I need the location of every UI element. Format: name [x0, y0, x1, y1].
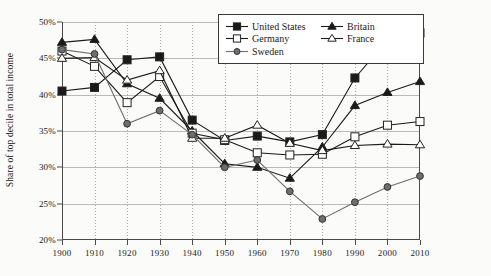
legend-label: Germany [252, 33, 289, 44]
legend-item-france: France [321, 33, 416, 44]
filled-square-marker [188, 116, 196, 124]
x-tick-label: 2000 [378, 248, 397, 258]
filled-circle-marker [124, 120, 131, 127]
x-tick-label: 1990 [345, 248, 364, 258]
open-square-icon [226, 33, 248, 44]
filled-triangle-marker [90, 35, 99, 43]
filled-circle-marker [417, 173, 424, 180]
open-square-marker [416, 118, 424, 126]
x-tick-mark [257, 240, 258, 245]
x-tick-mark [322, 240, 323, 245]
filled-circle-icon [226, 46, 248, 57]
y-tick-label: 30% [39, 162, 56, 172]
open-square-marker [286, 151, 294, 159]
y-tick-label: 50% [39, 17, 56, 27]
open-triangle-marker [350, 141, 359, 149]
series-line [62, 50, 420, 219]
series-line [62, 51, 420, 155]
x-tick-mark [225, 240, 226, 245]
legend-label: Britain [347, 21, 375, 32]
filled-square-marker [318, 131, 326, 139]
filled-circle-marker [234, 48, 240, 54]
x-tick-label: 1970 [280, 248, 299, 258]
legend-row: United States Britain [226, 21, 416, 32]
x-tick-label: 1920 [117, 248, 136, 258]
open-square-marker [233, 35, 240, 42]
x-tick-label: 2010 [410, 248, 429, 258]
filled-triangle-marker [415, 77, 424, 85]
filled-square-marker [253, 132, 261, 140]
open-triangle-marker [415, 140, 424, 148]
open-square-marker [351, 133, 359, 141]
y-axis-label: Share of top decile in total income [2, 0, 18, 240]
filled-circle-marker [286, 188, 293, 195]
filled-square-marker [123, 56, 131, 64]
filled-circle-marker [156, 107, 163, 114]
legend-label: United States [252, 21, 306, 32]
y-tick-label: 40% [39, 90, 56, 100]
filled-square-marker [233, 22, 240, 29]
legend-label: France [347, 33, 374, 44]
filled-circle-marker [189, 131, 196, 138]
x-tick-label: 1900 [52, 248, 71, 258]
open-square-marker [91, 62, 99, 70]
open-triangle-marker [253, 121, 262, 129]
legend-item-united-states: United States [226, 21, 321, 32]
x-tick-label: 1960 [248, 248, 267, 258]
filled-circle-marker [352, 199, 359, 206]
filled-circle-marker [221, 164, 228, 171]
filled-square-marker [351, 74, 359, 82]
open-triangle-marker [155, 66, 164, 74]
y-tick-label: 25% [39, 199, 56, 209]
legend-row: Germany France [226, 33, 416, 44]
filled-circle-marker [91, 51, 98, 58]
chart-figure: Share of top decile in total income 20%2… [0, 0, 491, 276]
filled-square-icon [226, 21, 248, 32]
open-triangle-marker [328, 34, 336, 41]
open-triangle-marker [383, 139, 392, 147]
x-tick-mark [95, 240, 96, 245]
filled-triangle-marker [328, 22, 336, 29]
filled-square-marker [58, 87, 66, 95]
filled-circle-marker [384, 184, 391, 191]
legend-label: Sweden [252, 46, 284, 57]
legend-item-germany: Germany [226, 33, 321, 44]
filled-circle-marker [319, 216, 326, 223]
open-square-marker [383, 121, 391, 129]
legend-row: Sweden [226, 46, 416, 57]
legend-item-sweden: Sweden [226, 46, 321, 57]
x-tick-mark [355, 240, 356, 245]
open-triangle-icon [321, 33, 343, 44]
open-square-marker [253, 149, 261, 157]
x-tick-label: 1980 [313, 248, 332, 258]
x-tick-mark [192, 240, 193, 245]
filled-triangle-icon [321, 21, 343, 32]
x-tick-mark [127, 240, 128, 245]
filled-square-marker [91, 83, 99, 91]
x-tick-label: 1930 [150, 248, 169, 258]
chart-legend: United States Britain Germany France Swe… [218, 14, 424, 64]
series-sweden [59, 46, 424, 222]
y-tick-label: 45% [39, 53, 56, 63]
y-tick-label: 35% [39, 126, 56, 136]
x-tick-label: 1910 [85, 248, 104, 258]
filled-circle-marker [254, 157, 261, 164]
filled-triangle-marker [155, 94, 164, 102]
x-tick-mark [160, 240, 161, 245]
x-tick-mark [387, 240, 388, 245]
x-tick-label: 1950 [215, 248, 234, 258]
x-tick-label: 1940 [183, 248, 202, 258]
y-tick-label: 20% [39, 235, 56, 245]
open-square-marker [123, 99, 131, 107]
filled-circle-marker [59, 46, 66, 53]
legend-item-britain: Britain [321, 21, 416, 32]
x-tick-mark [62, 240, 63, 245]
x-tick-mark [420, 240, 421, 245]
filled-square-marker [156, 53, 164, 61]
x-tick-mark [290, 240, 291, 245]
series-line [62, 58, 420, 151]
